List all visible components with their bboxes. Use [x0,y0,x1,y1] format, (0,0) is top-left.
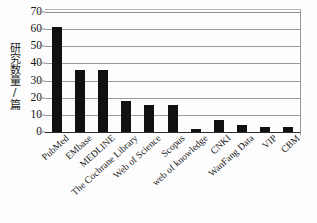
bar [214,120,224,132]
bars [45,12,300,132]
bar [237,125,247,132]
plot-right-border [300,10,301,135]
x-axis-category-label: CBM [280,133,303,155]
bar [283,127,293,132]
bar [121,101,131,132]
bar [191,129,201,132]
bar [260,127,270,132]
bar [75,70,85,132]
x-axis-category-label: PubMed [39,133,70,162]
bar [98,70,108,132]
plot-top-border [45,9,301,10]
bar-chart: 研究数量/篇 010203040506070 PubMedEMbaseMEDLI… [0,0,317,223]
bar [52,27,62,132]
plot-area [45,12,300,132]
bar [144,105,154,132]
x-axis-category-labels: PubMedEMbaseMEDLINEThe Cochrane LibraryW… [45,133,317,223]
x-axis-category-label: VIP [261,133,279,151]
bar [168,105,178,132]
y-axis-title: 研究数量/篇 [4,42,20,110]
